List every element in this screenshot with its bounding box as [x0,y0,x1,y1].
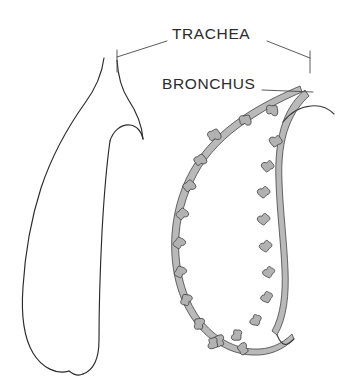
label-trachea: TRACHEA [172,25,250,42]
diagram-background [0,0,351,389]
label-bronchus: BRONCHUS [162,75,256,92]
diagram-canvas: TRACHEA BRONCHUS [0,0,351,389]
lung-development-diagram: TRACHEA BRONCHUS [0,0,351,389]
